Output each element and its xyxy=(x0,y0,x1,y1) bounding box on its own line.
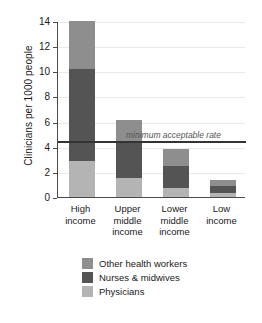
x-axis-label: Lowincome xyxy=(195,203,249,226)
x-axis-label-line: Lower xyxy=(148,203,202,215)
chart-legend: Other health workersNurses & midwivesPhy… xyxy=(82,258,187,300)
x-axis-label: Lowermiddleincome xyxy=(148,203,202,238)
x-axis-label-line: income xyxy=(148,226,202,238)
bar-segment[interactable] xyxy=(210,193,236,197)
plot-area: minimum acceptable rate xyxy=(57,22,245,198)
y-tick-label: 4 xyxy=(26,143,50,153)
legend-item[interactable]: Physicians xyxy=(82,286,187,297)
legend-swatch-icon xyxy=(82,258,93,269)
y-tick-label: 2 xyxy=(26,168,50,178)
minimum-acceptable-rate-label: minimum acceptable rate xyxy=(126,130,221,140)
x-axis-label: Highincome xyxy=(54,203,108,226)
legend-swatch-icon xyxy=(82,272,93,283)
y-tick-mark xyxy=(53,198,57,199)
bar-segment[interactable] xyxy=(210,186,236,192)
bar-segment[interactable] xyxy=(163,188,189,197)
y-tick-label: 8 xyxy=(26,92,50,102)
x-axis-label-line: income xyxy=(195,215,249,227)
bar-group[interactable] xyxy=(69,21,95,197)
y-tick-label: 10 xyxy=(26,67,50,77)
x-axis-label: Uppermiddleincome xyxy=(101,203,155,238)
bar-segment[interactable] xyxy=(116,178,142,197)
bar-segment[interactable] xyxy=(69,161,95,197)
bar-segment[interactable] xyxy=(69,21,95,69)
bar-segment[interactable] xyxy=(163,149,189,166)
minimum-acceptable-rate-line xyxy=(58,141,246,143)
y-tick-label: 6 xyxy=(26,118,50,128)
bar-segment[interactable] xyxy=(116,143,142,178)
x-axis-label-line: High xyxy=(54,203,108,215)
legend-item[interactable]: Other health workers xyxy=(82,258,187,269)
stacked-bar-chart: Clinicians per 1000 people 02468101214 m… xyxy=(0,0,262,323)
y-tick-label: 0 xyxy=(26,193,50,203)
legend-item[interactable]: Nurses & midwives xyxy=(82,272,187,283)
x-axis-label-line: income xyxy=(101,226,155,238)
bar-segment[interactable] xyxy=(69,69,95,161)
legend-label: Nurses & midwives xyxy=(99,272,180,283)
x-axis-label-line: income xyxy=(54,215,108,227)
legend-label: Physicians xyxy=(99,286,144,297)
bar-segment[interactable] xyxy=(163,166,189,188)
bar-group[interactable] xyxy=(163,149,189,197)
legend-swatch-icon xyxy=(82,286,93,297)
legend-label: Other health workers xyxy=(99,258,187,269)
bar-group[interactable] xyxy=(210,180,236,197)
x-axis-label-line: Low xyxy=(195,203,249,215)
y-tick-label: 12 xyxy=(26,42,50,52)
y-tick-label: 14 xyxy=(26,17,50,27)
x-axis-label-line: middle xyxy=(148,215,202,227)
x-axis-label-line: Upper xyxy=(101,203,155,215)
x-axis-label-line: middle xyxy=(101,215,155,227)
bar-segment[interactable] xyxy=(210,180,236,186)
